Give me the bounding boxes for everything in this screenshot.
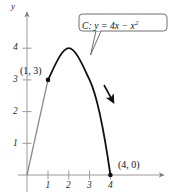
point-marker-1-3	[46, 78, 51, 83]
segment-origin-to-point	[27, 80, 48, 175]
curve-direction-arrow	[104, 85, 112, 100]
point-label-1-3: (1, 3)	[20, 66, 42, 76]
callout-equation-exponent: 2	[135, 19, 138, 26]
x-tick-label-2: 2	[66, 181, 71, 191]
y-tick-label-2: 2	[13, 107, 18, 117]
point-label-4-0: (4, 0)	[118, 160, 140, 170]
y-tick-label-4: 4	[13, 43, 18, 53]
x-tick-label-1: 1	[46, 181, 51, 191]
x-tick-label-3: 3	[87, 181, 92, 191]
figure-parabola-plot: C: y = 4x − x2 y x 1 2 3 4 1 2 3 4 (1, 3…	[0, 0, 175, 196]
callout-tail	[91, 31, 102, 55]
x-tick-label-4: 4	[108, 181, 113, 191]
y-tick-label-1: 1	[13, 139, 18, 149]
parabola-curve	[48, 48, 110, 175]
point-marker-4-0	[108, 173, 113, 178]
y-tick-label-3: 3	[13, 75, 18, 85]
y-axis-name: y	[11, 2, 15, 11]
callout-equation-main: C: y = 4x − x	[82, 21, 135, 31]
callout-equation-label: C: y = 4x − x2	[82, 19, 138, 31]
